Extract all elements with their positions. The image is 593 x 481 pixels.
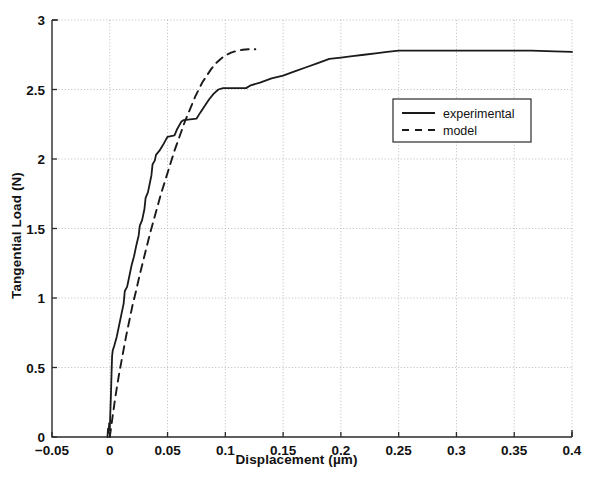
legend-label-model: model (443, 124, 477, 138)
grid-lines (52, 20, 572, 437)
x-axis-label: Displacement (µm) (0, 452, 593, 467)
legend-box: experimentalmodel (393, 99, 531, 142)
y-tick-label: 1 (37, 291, 45, 306)
y-axis-label: Tangential Load (N) (9, 156, 24, 316)
legend-label-experimental: experimental (443, 107, 515, 121)
y-tick-label: 2 (37, 152, 45, 167)
series-model (110, 49, 256, 437)
y-tick-label: 0 (37, 430, 45, 445)
y-tick-label: 2.5 (26, 83, 45, 98)
y-tick-label: 3 (37, 13, 45, 28)
chart-canvas: −0.0500.050.10.150.20.250.30.350.400.511… (0, 0, 593, 481)
figure-container: −0.0500.050.10.150.20.250.30.350.400.511… (0, 0, 593, 481)
y-tick-label: 0.5 (26, 361, 45, 376)
y-tick-label: 1.5 (26, 222, 45, 237)
